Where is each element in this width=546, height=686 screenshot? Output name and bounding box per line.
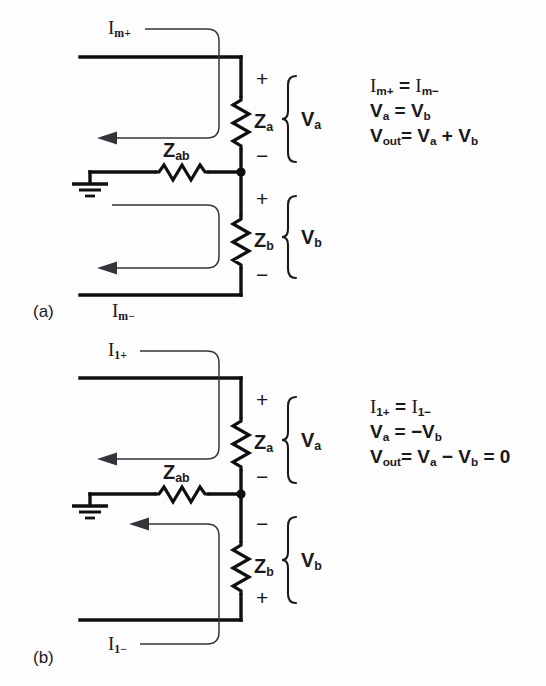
figure-page: Im+ Im− + Za − Zab + Zb − Va Vb Im+ = Im… [0, 0, 546, 686]
brace-va-b [282, 397, 296, 483]
arrowhead-im-plus-a [97, 132, 117, 145]
equation-1-b: I1+ = I1− [370, 397, 431, 416]
voltage-label-va-b: Va [301, 430, 321, 450]
brace-vb-b [282, 517, 296, 603]
component-label-zb-b: Zb [254, 556, 274, 576]
equation-3-b: Vout= Va − Vb = 0 [370, 447, 510, 466]
equation-2-a: Va = Vb [370, 101, 431, 120]
component-label-zb-a: Zb [254, 230, 274, 250]
current-leader-im-plus-a [110, 29, 219, 138]
current-leader-i1-plus-b [110, 351, 219, 459]
resistor-zb-a [233, 215, 249, 269]
polarity-zb-bottom-a: − [256, 264, 268, 285]
circuit-schematic-b [0, 343, 546, 686]
current-label-i1-minus-b: I1− [108, 634, 127, 653]
arrowhead-i1-minus-b [129, 518, 149, 531]
current-label-im-plus-a: Im+ [108, 18, 131, 37]
brace-vb-a [282, 196, 296, 278]
equation-3-a: Vout= Va + Vb [370, 126, 478, 145]
polarity-zb-top-b: − [256, 513, 268, 534]
polarity-za-bottom-b: − [256, 466, 268, 487]
ground-icon-a [72, 184, 108, 196]
resistor-zab-a [155, 165, 209, 180]
voltage-label-vb-a: Vb [301, 227, 322, 247]
current-label-im-minus-a: Im− [112, 301, 135, 320]
ground-icon-b [72, 506, 108, 518]
resistor-za-b [233, 417, 249, 471]
polarity-zb-top-a: + [256, 188, 268, 209]
current-leader-i1-minus-b [140, 524, 219, 644]
polarity-zb-bottom-b: + [256, 587, 268, 608]
brace-va-a [282, 76, 296, 162]
voltage-label-va-a: Va [301, 109, 321, 129]
current-label-i1-plus-b: I1+ [108, 340, 127, 359]
circuit-panel-a: Im+ Im− + Za − Zab + Zb − Va Vb Im+ = Im… [0, 0, 546, 343]
component-label-zab-b: Zab [163, 462, 190, 482]
polarity-za-top-b: + [256, 389, 268, 410]
component-label-za-b: Za [254, 432, 273, 452]
resistor-zab-b [155, 487, 209, 502]
resistor-za-a [233, 96, 249, 150]
voltage-label-vb-b: Vb [301, 550, 322, 570]
resistor-zb-b [233, 541, 249, 595]
circuit-panel-b: I1+ I1− + Za − Zab − Zb + Va Vb I1+ = I1… [0, 343, 546, 686]
arrowhead-im-minus-a [97, 262, 117, 275]
panel-caption-b: (b) [33, 649, 54, 666]
current-leader-im-minus-a [110, 205, 219, 268]
equation-2-b: Va = −Vb [370, 422, 442, 441]
equation-1-a: Im+ = Im− [370, 76, 439, 95]
panel-caption-a: (a) [33, 303, 54, 320]
component-label-zab-a: Zab [163, 140, 190, 160]
arrowhead-i1-plus-b [97, 453, 117, 466]
circuit-schematic-a [0, 0, 546, 343]
component-label-za-a: Za [254, 111, 273, 131]
polarity-za-top-a: + [256, 68, 268, 89]
polarity-za-bottom-a: − [256, 145, 268, 166]
